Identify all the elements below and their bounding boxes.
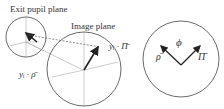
- phi-label: ϕ: [176, 37, 182, 48]
- rho-vector-right: [161, 46, 181, 65]
- image-plane-label: Image plane: [71, 22, 115, 31]
- yi-rho-label: yᵢ · ρ̄: [19, 70, 36, 79]
- pi-vector: [84, 47, 98, 70]
- rho-label: ρ̄: [156, 52, 161, 62]
- pi-label: Π̄: [198, 52, 205, 62]
- diagram: [0, 0, 224, 109]
- exit-pupil-plane-label: Exit pupil plane: [10, 5, 68, 14]
- dashed-connector: [28, 35, 100, 47]
- angle-circle: [143, 21, 219, 97]
- rho-vector: [26, 33, 37, 42]
- yi-pi-label: yᵢ · Π̄: [109, 42, 128, 51]
